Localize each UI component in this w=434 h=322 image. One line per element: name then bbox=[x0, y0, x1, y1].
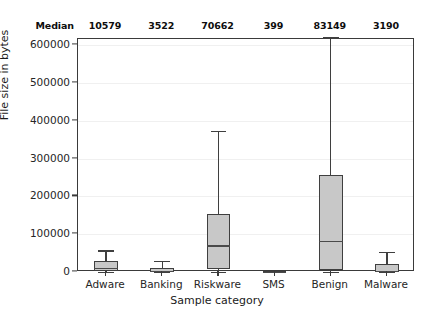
x-tick-label-malware: Malware bbox=[364, 278, 408, 290]
median-value-adware: 10579 bbox=[89, 20, 122, 31]
box-plot-figure: Median 10579352270662399831493190 File s… bbox=[0, 0, 434, 322]
median-line-benign bbox=[319, 241, 343, 242]
whisker-upper-benign bbox=[330, 37, 331, 175]
whisker-cap-upper-riskware bbox=[211, 131, 227, 132]
whisker-upper-adware bbox=[105, 250, 106, 261]
y-tick-label: 500000 bbox=[0, 76, 78, 88]
whisker-upper-riskware bbox=[218, 131, 219, 215]
median-value-malware: 3190 bbox=[373, 20, 399, 31]
whisker-cap-upper-malware bbox=[379, 252, 395, 253]
y-tick-label: 100000 bbox=[0, 227, 78, 239]
x-tick-label-benign: Benign bbox=[311, 278, 348, 290]
median-line-riskware bbox=[207, 245, 231, 246]
whisker-upper-malware bbox=[386, 252, 387, 264]
median-value-benign: 83149 bbox=[313, 20, 346, 31]
median-row-label: Median bbox=[28, 20, 74, 31]
x-tick-mark bbox=[330, 271, 331, 276]
x-tick-mark bbox=[105, 271, 106, 276]
y-tick-label: 200000 bbox=[0, 189, 78, 201]
whisker-cap-upper-banking bbox=[154, 261, 170, 262]
y-tick-label: 600000 bbox=[0, 38, 78, 50]
y-tick-label: 400000 bbox=[0, 114, 78, 126]
x-tick-label-banking: Banking bbox=[140, 278, 183, 290]
y-tick-label: 300000 bbox=[0, 152, 78, 164]
x-tick-mark bbox=[274, 271, 275, 276]
x-tick-label-riskware: Riskware bbox=[194, 278, 241, 290]
y-tick-label: 0 bbox=[0, 265, 78, 277]
x-tick-mark bbox=[161, 271, 162, 276]
x-tick-mark bbox=[217, 271, 218, 276]
whisker-cap-upper-benign bbox=[323, 37, 339, 38]
x-tick-label-sms: SMS bbox=[262, 278, 284, 290]
median-value-riskware: 70662 bbox=[201, 20, 234, 31]
box-plot-series bbox=[78, 39, 413, 270]
box-benign bbox=[319, 175, 343, 270]
plot-area bbox=[77, 38, 414, 271]
box-riskware bbox=[207, 214, 231, 268]
x-tick-label-adware: Adware bbox=[85, 278, 124, 290]
median-value-banking: 3522 bbox=[148, 20, 174, 31]
x-axis-label: Sample category bbox=[0, 294, 434, 307]
box-adware bbox=[94, 261, 118, 271]
x-tick-mark bbox=[386, 271, 387, 276]
median-value-sms: 399 bbox=[264, 20, 284, 31]
whisker-cap-upper-adware bbox=[98, 250, 114, 251]
median-line-adware bbox=[94, 268, 118, 269]
